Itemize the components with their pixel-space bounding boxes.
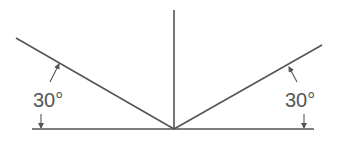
left-incline-line xyxy=(16,38,174,129)
angle-diagram: 30° 30° xyxy=(0,0,343,144)
right-angle-dimension: 30° xyxy=(285,67,315,128)
right-angle-label: 30° xyxy=(285,89,315,111)
left-angle-label: 30° xyxy=(33,89,63,111)
left-angle-dimension: 30° xyxy=(33,64,63,128)
left-upper-arrow-icon xyxy=(50,64,59,82)
right-upper-arrow-icon xyxy=(289,67,297,82)
right-incline-line xyxy=(174,45,322,129)
